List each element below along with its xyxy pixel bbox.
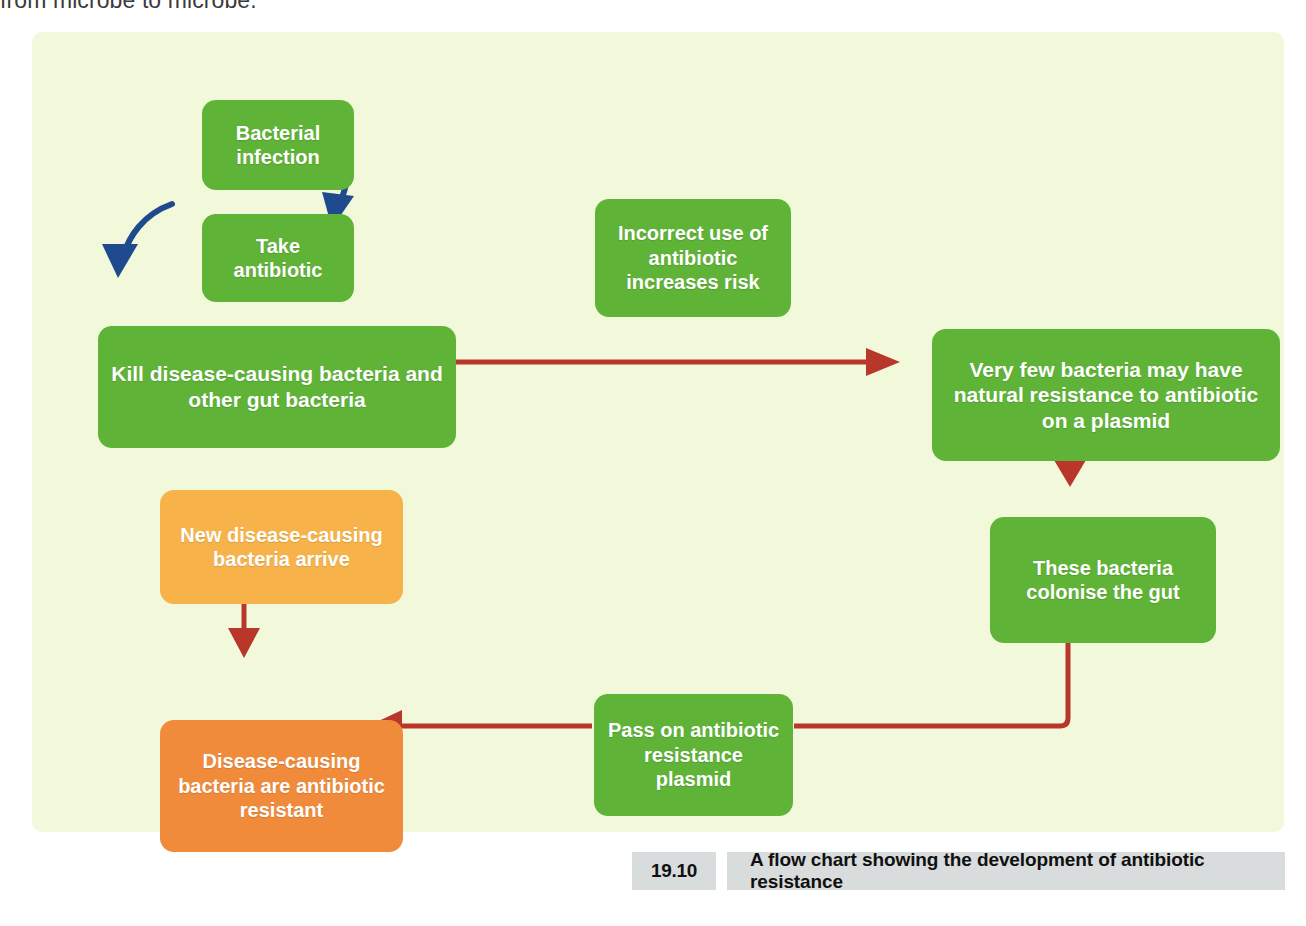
- caption-divider: [716, 852, 727, 890]
- flow-node-colonise-gut[interactable]: These bacteria colonise the gut: [990, 517, 1216, 643]
- figure-canvas: Bacterial infection Take antibiotic Inco…: [32, 32, 1284, 832]
- page-lead-text: from microbe to microbe.: [0, 0, 420, 14]
- edge-kill-to-veryfew: [424, 348, 900, 376]
- edge-colonise-to-pass: [794, 643, 1068, 726]
- flow-node-incorrect-use[interactable]: Incorrect use of antibiotic increases ri…: [595, 199, 791, 317]
- edge-antibiotic-to-kill: [102, 204, 172, 278]
- flow-node-resistant-bacteria[interactable]: Disease-causing bacteria are antibiotic …: [160, 720, 403, 852]
- flow-node-kill-bacteria[interactable]: Kill disease-causing bacteria and other …: [98, 326, 456, 448]
- figure-caption-bar: 19.10 A flow chart showing the developme…: [632, 852, 1285, 890]
- flow-node-bacterial-infection[interactable]: Bacterial infection: [202, 100, 354, 190]
- figure-caption-text: A flow chart showing the development of …: [727, 849, 1285, 893]
- flow-node-pass-plasmid[interactable]: Pass on antibiotic resistance plasmid: [594, 694, 793, 816]
- flow-node-take-antibiotic[interactable]: Take antibiotic: [202, 214, 354, 302]
- flow-node-new-disease-bacteria[interactable]: New disease-causing bacteria arrive: [160, 490, 403, 604]
- figure-caption-number: 19.10: [632, 860, 716, 882]
- flow-node-very-few-bacteria[interactable]: Very few bacteria may have natural resis…: [932, 329, 1280, 461]
